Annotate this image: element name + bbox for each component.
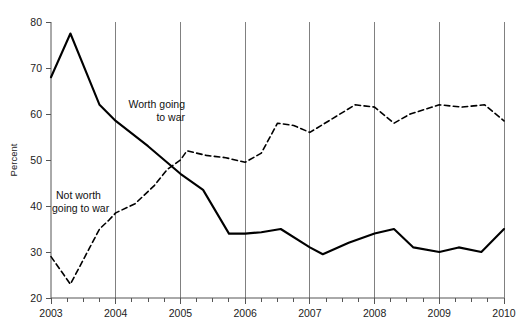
x-tick-label-2004: 2004	[104, 307, 128, 319]
y-tick-label-20: 20	[30, 292, 42, 304]
y-tick-label-70: 70	[30, 62, 42, 74]
x-tick-label-2008: 2008	[363, 307, 387, 319]
y-tick-label-40: 40	[30, 200, 42, 212]
chart-figure: 20304050607080 2003200420052006200720082…	[0, 0, 521, 328]
chart-background	[0, 0, 521, 328]
worth-label-line1: Worth going	[129, 98, 186, 110]
notworth-label-line1: Not worth	[56, 189, 101, 201]
x-tick-label-2009: 2009	[428, 307, 452, 319]
x-tick-label-2007: 2007	[298, 307, 322, 319]
y-tick-label-50: 50	[30, 154, 42, 166]
x-tick-label-2010: 2010	[492, 307, 516, 319]
line-chart: 20304050607080 2003200420052006200720082…	[0, 0, 521, 328]
y-tick-label-80: 80	[30, 16, 42, 28]
notworth-label-line2: going to war	[52, 202, 110, 214]
x-tick-label-2003: 2003	[39, 307, 63, 319]
y-axis-title: Percent	[8, 143, 19, 176]
y-tick-label-30: 30	[30, 246, 42, 258]
x-tick-label-2006: 2006	[233, 307, 257, 319]
x-tick-label-2005: 2005	[169, 307, 193, 319]
y-tick-label-60: 60	[30, 108, 42, 120]
worth-label-line2: to war	[156, 111, 185, 123]
